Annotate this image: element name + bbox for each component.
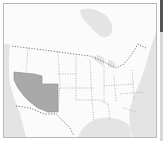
gulf-of-mexico [78,118,131,137]
scrollbar-thumb[interactable] [160,0,163,32]
great-lakes [94,55,105,66]
atlantic-ocean [129,32,156,137]
us-map [4,4,156,137]
highlighted-states [14,72,58,112]
canada-border [12,44,146,68]
great-lakes-east [108,60,116,68]
hudson-bay [80,9,112,38]
map-frame [3,3,157,138]
